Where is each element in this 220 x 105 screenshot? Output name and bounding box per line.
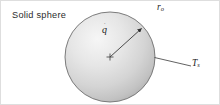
overdot-accent-icon: ˙ (104, 22, 106, 28)
surface-temperature-leader (155, 58, 192, 67)
outer-radius-label: ro (157, 3, 164, 13)
surface-temperature-subscript: s (197, 61, 200, 68)
outer-radius-subscript: o (161, 5, 164, 12)
surface-temperature-label: Ts (192, 59, 200, 69)
heat-generation-label: ˙q (102, 25, 107, 35)
solid-sphere-figure: Solid sphere ro ˙q Ts (0, 0, 220, 105)
solid-sphere-label: Solid sphere (12, 11, 66, 20)
heat-generation-symbol-wrap: ˙q (102, 25, 107, 35)
